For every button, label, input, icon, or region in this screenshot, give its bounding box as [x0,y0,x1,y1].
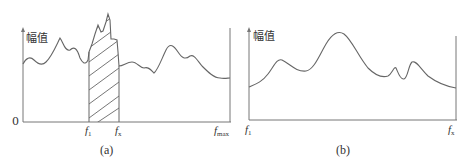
x-tick-f1-a: f1 [85,124,92,138]
y-axis-arrow-icon [21,27,25,32]
x-tick-fmax-a: fmax [214,124,229,138]
x-tick-fx-a: fx [115,124,122,138]
caption-a: (a) [100,143,113,158]
x-tick-f1-b: f1 [245,123,252,137]
origin-label: 0 [12,115,19,128]
y-axis-label-b: 幅值 [253,27,275,43]
figure-canvas [0,0,466,166]
y-axis-arrow-icon [247,27,251,32]
spectrum-curve-b [249,32,456,88]
x-tick-fx-b: fx [448,123,455,137]
panel-a-axes [21,27,231,122]
caption-b: (b) [336,143,350,158]
spectrum-curve-a [23,14,230,78]
y-axis-label-a: 幅值 [26,29,48,45]
